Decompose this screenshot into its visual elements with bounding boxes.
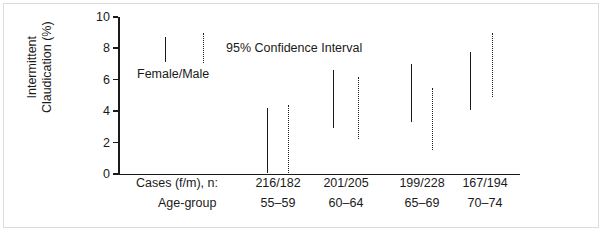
interval-bar-female-65-69: [411, 64, 412, 122]
y-axis-title-line2: Claudication (%): [40, 21, 54, 113]
age-group-value-65-69: 65–69: [390, 197, 454, 210]
legend-marker-male: [203, 33, 204, 63]
y-tick-mark-8: [113, 47, 118, 49]
interval-bar-male-55-59: [288, 105, 289, 175]
y-tick-mark-2: [113, 142, 118, 144]
y-tick-label-4: 4: [88, 105, 110, 118]
confidence-interval-annotation: 95% Confidence Interval: [226, 42, 362, 55]
y-tick-mark-4: [113, 110, 118, 112]
figure-container: Intermittent Claudication (%) 0 2 4 6 8 …: [0, 0, 605, 240]
chart-plot-area: Intermittent Claudication (%) 0 2 4 6 8 …: [0, 0, 605, 240]
legend-marker-female: [165, 37, 166, 62]
age-group-value-70-74: 70–74: [453, 197, 517, 210]
y-tick-label-6: 6: [88, 74, 110, 87]
y-tick-label-10: 10: [88, 11, 110, 24]
age-group-value-55-59: 55–59: [246, 197, 310, 210]
cases-value-65-69: 199/228: [390, 177, 454, 190]
interval-bar-female-55-59: [267, 108, 268, 173]
y-tick-mark-6: [113, 79, 118, 81]
interval-bar-female-70-74: [470, 52, 471, 110]
cases-value-70-74: 167/194: [453, 177, 517, 190]
female-male-annotation: Female/Male: [137, 68, 209, 81]
y-axis-title: Intermittent Claudication (%): [25, 0, 56, 147]
interval-bar-male-70-74: [492, 33, 493, 97]
cases-value-60-64: 201/205: [314, 177, 378, 190]
y-tick-label-2: 2: [88, 137, 110, 150]
y-axis-title-line1: Intermittent: [25, 36, 39, 99]
age-group-row-header: Age-group: [158, 197, 216, 210]
y-tick-mark-0: [113, 173, 118, 175]
cases-row-header: Cases (f/m), n:: [136, 177, 218, 190]
y-axis-line: [118, 17, 120, 175]
interval-bar-female-60-64: [333, 70, 334, 128]
y-tick-mark-10: [113, 16, 118, 18]
interval-bar-male-60-64: [358, 77, 359, 140]
cases-value-55-59: 216/182: [246, 177, 310, 190]
y-tick-label-0: 0: [88, 168, 110, 181]
x-axis-line: [118, 174, 520, 176]
y-tick-label-8: 8: [88, 42, 110, 55]
interval-bar-male-65-69: [432, 88, 433, 151]
age-group-value-60-64: 60–64: [314, 197, 378, 210]
